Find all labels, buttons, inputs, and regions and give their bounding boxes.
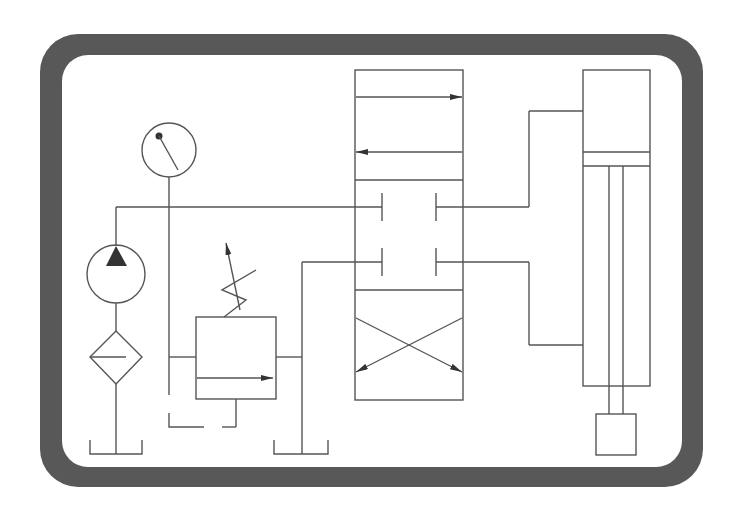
cylinder-icon (583, 70, 650, 414)
relief-valve-icon (169, 243, 302, 427)
load-icon (596, 414, 636, 455)
reservoir-return-icon (274, 262, 382, 454)
pressure-gauge-icon (142, 123, 196, 395)
pump-icon (87, 207, 145, 303)
work-lines (436, 111, 583, 345)
filter-icon (90, 303, 142, 454)
hydraulic-schematic (0, 0, 737, 522)
directional-valve-icon (355, 70, 463, 400)
